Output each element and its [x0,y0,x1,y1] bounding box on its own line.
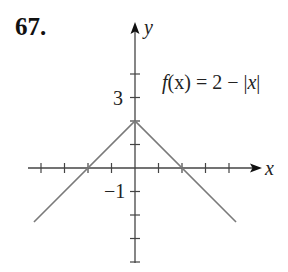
abs-close: | [256,71,260,94]
x-axis-label: x [264,157,274,179]
y-axis-label: y [142,16,153,39]
abs-var: x [246,71,256,93]
function-label: f(x) = 2 − |x| [162,71,260,94]
y-tick-label-3: 3 [113,87,123,109]
function-graph: x y 3 −1 f(x) = 2 − |x| [0,0,288,272]
y-tick-label-neg1: −1 [104,180,125,202]
function-arg: (x) = 2 − [168,71,244,94]
